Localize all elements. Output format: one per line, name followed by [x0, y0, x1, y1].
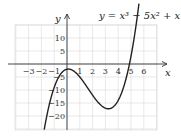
chart-title: y = x³ − 5x² + x − 2	[98, 10, 181, 21]
y-tick-label: 5	[60, 47, 65, 56]
x-tick-label: 4	[116, 67, 121, 76]
y-axis-label: y	[54, 13, 61, 24]
y-tick-label: −10	[48, 86, 65, 95]
x-tick-label: −3	[23, 67, 35, 76]
function-graph: −3−2−1123456105−5−10−15−20 y = x³ − 5x² …	[0, 0, 181, 138]
y-tick-label: −20	[48, 112, 65, 121]
x-tick-label: −2	[36, 67, 48, 76]
y-tick-label: 10	[55, 34, 65, 43]
x-tick-label: 3	[103, 67, 108, 76]
x-axis-label: x	[165, 67, 171, 78]
grid-lines	[15, 25, 157, 130]
x-tick-label: 6	[141, 67, 146, 76]
x-tick-label: 2	[90, 67, 95, 76]
